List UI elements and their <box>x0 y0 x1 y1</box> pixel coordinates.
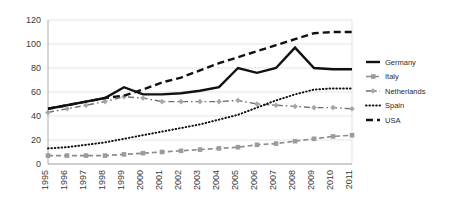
data-point-marker <box>311 105 317 111</box>
series-netherlands <box>45 94 355 115</box>
data-point-marker <box>46 153 51 158</box>
legend-label-netherlands: Netherlands <box>385 87 426 96</box>
legend-item-usa[interactable]: USA <box>366 116 400 125</box>
legend-label-usa: USA <box>385 116 400 125</box>
data-point-marker <box>330 105 336 111</box>
chart-container: 0204060801001201995199619971998199920002… <box>0 0 458 207</box>
data-point-marker <box>84 153 89 158</box>
data-point-marker <box>274 141 279 146</box>
data-point-marker <box>273 102 279 108</box>
data-point-marker <box>83 102 89 108</box>
y-tick-label: 60 <box>31 87 41 97</box>
x-tick-label: 2002 <box>173 170 183 190</box>
data-point-marker <box>122 152 127 157</box>
x-tick-label: 2010 <box>325 170 335 190</box>
data-point-marker <box>331 134 336 139</box>
y-tick-label: 40 <box>31 111 41 121</box>
x-tick-label: 1995 <box>40 170 50 190</box>
data-point-marker <box>159 99 165 105</box>
data-point-marker <box>197 99 203 105</box>
y-tick-label: 100 <box>26 39 41 49</box>
data-point-marker <box>349 106 355 112</box>
legend-marker <box>370 88 376 94</box>
series-italy <box>46 133 355 158</box>
data-point-marker <box>64 106 70 112</box>
x-tick-label: 1996 <box>59 170 69 190</box>
data-point-marker <box>216 99 222 105</box>
y-tick-label: 0 <box>36 159 41 169</box>
data-point-marker <box>103 153 108 158</box>
y-tick-label: 80 <box>31 63 41 73</box>
data-point-marker <box>198 147 203 152</box>
data-point-marker <box>65 153 70 158</box>
data-point-marker <box>293 139 298 144</box>
x-tick-label: 2011 <box>344 170 354 189</box>
x-tick-label: 2003 <box>192 170 202 190</box>
x-tick-label: 2009 <box>306 170 316 190</box>
data-point-marker <box>255 143 260 148</box>
data-point-marker <box>141 151 146 156</box>
x-tick-label: 2006 <box>249 170 259 190</box>
data-point-marker <box>45 110 51 116</box>
legend-marker <box>371 74 376 79</box>
data-point-marker <box>236 145 241 150</box>
data-point-marker <box>102 99 108 105</box>
y-tick-label: 20 <box>31 135 41 145</box>
legend-label-italy: Italy <box>385 72 399 81</box>
legend-item-germany[interactable]: Germany <box>366 58 416 67</box>
legend-item-italy[interactable]: Italy <box>366 72 399 81</box>
x-tick-label: 2008 <box>287 170 297 190</box>
legend-label-germany: Germany <box>385 58 416 67</box>
data-point-marker <box>140 95 146 101</box>
x-tick-label: 2004 <box>211 170 221 190</box>
data-point-marker <box>292 104 298 110</box>
series-line-italy <box>48 135 352 155</box>
data-point-marker <box>160 150 165 155</box>
data-point-marker <box>217 146 222 151</box>
x-tick-label: 2005 <box>230 170 240 190</box>
data-point-marker <box>178 99 184 105</box>
y-tick-label: 120 <box>26 15 41 25</box>
legend-item-netherlands[interactable]: Netherlands <box>366 87 426 96</box>
legend-label-spain: Spain <box>385 101 404 110</box>
x-tick-label: 2001 <box>154 170 164 190</box>
x-tick-label: 1998 <box>97 170 107 190</box>
x-tick-label: 2000 <box>135 170 145 190</box>
series-usa <box>48 32 352 109</box>
data-point-marker <box>235 98 241 104</box>
data-point-marker <box>350 133 355 138</box>
line-chart: 0204060801001201995199619971998199920002… <box>0 0 458 207</box>
x-tick-label: 1997 <box>78 170 88 190</box>
x-tick-label: 2007 <box>268 170 278 190</box>
data-point-marker <box>179 149 184 154</box>
legend-item-spain[interactable]: Spain <box>366 101 404 110</box>
data-point-marker <box>254 101 260 107</box>
series-line-usa <box>48 32 352 109</box>
x-tick-label: 1999 <box>116 170 126 190</box>
data-point-marker <box>312 137 317 142</box>
